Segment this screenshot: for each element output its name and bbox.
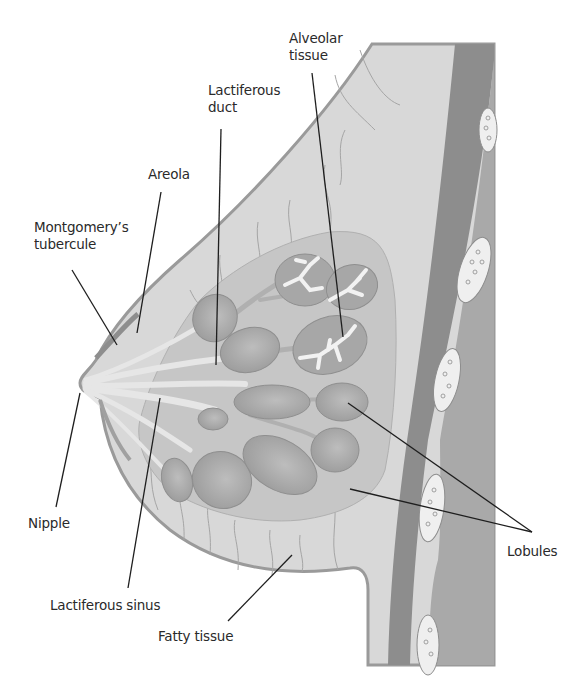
- label-alveolar-tissue: Alveolar tissue: [289, 30, 343, 64]
- breast-anatomy-diagram: [0, 0, 586, 686]
- label-lobules: Lobules: [507, 543, 557, 560]
- label-nipple: Nipple: [28, 515, 70, 532]
- leader-montgomerys-tubercule: [72, 270, 117, 345]
- label-fatty-tissue: Fatty tissue: [158, 628, 233, 645]
- label-montgomerys-tubercule: Montgomery’s tubercule: [34, 219, 129, 253]
- label-areola: Areola: [148, 166, 190, 183]
- label-lactiferous-duct: Lactiferous duct: [208, 82, 280, 116]
- leader-nipple: [56, 393, 80, 507]
- label-lactiferous-sinus: Lactiferous sinus: [50, 597, 160, 614]
